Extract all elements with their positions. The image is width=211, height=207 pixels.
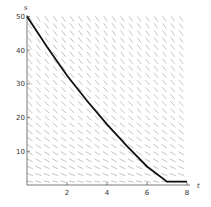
svg-text:8: 8 [185, 189, 189, 197]
svg-text:50: 50 [16, 13, 25, 21]
svg-text:10: 10 [16, 148, 25, 156]
svg-text:30: 30 [16, 80, 25, 88]
svg-text:6: 6 [145, 189, 150, 197]
y-axis-label: s [24, 4, 28, 12]
svg-text:2: 2 [65, 189, 69, 197]
svg-text:40: 40 [16, 47, 25, 55]
solution-curve [27, 17, 187, 182]
svg-text:4: 4 [105, 189, 110, 197]
svg-text:20: 20 [16, 114, 25, 122]
slope-field [27, 16, 184, 182]
x-axis-label: t [197, 182, 200, 190]
slope-field-chart: 24681020304050 s t [0, 0, 211, 207]
